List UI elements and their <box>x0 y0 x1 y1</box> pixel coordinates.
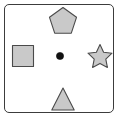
dot-shape <box>56 52 63 59</box>
star-shape <box>88 45 112 68</box>
square-shape <box>13 46 34 67</box>
star-icon <box>88 45 112 68</box>
square-icon <box>13 46 34 67</box>
triangle-icon <box>52 88 74 110</box>
dot-icon <box>56 52 63 59</box>
triangle-shape <box>52 88 74 110</box>
pentagon-icon <box>50 8 77 34</box>
shape-diagram-canvas <box>0 0 122 119</box>
shapes-layer <box>0 0 122 119</box>
pentagon-shape <box>50 8 77 34</box>
